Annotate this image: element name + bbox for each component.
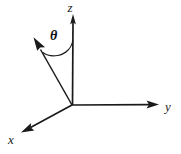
y-axis-label: y	[163, 99, 171, 114]
theta-arc-group	[43, 41, 73, 56]
z-axis-line	[73, 22, 74, 105]
coordinate-axes-figure: z y x θ	[0, 0, 181, 154]
direction-ray-group	[34, 37, 73, 105]
theta-arc-path	[43, 41, 73, 56]
y-axis-group	[72, 101, 159, 109]
theta-angle-label: θ	[50, 28, 58, 43]
figure-canvas: z y x θ	[0, 0, 181, 154]
z-axis-label: z	[66, 0, 72, 15]
x-axis-group	[21, 105, 72, 133]
x-axis-line	[31, 105, 73, 128]
x-axis-label: x	[7, 132, 14, 147]
direction-ray-line	[41, 50, 73, 106]
direction-ray-arrowhead	[34, 37, 46, 51]
z-axis-group	[70, 14, 76, 105]
x-axis-arrowhead	[21, 123, 34, 133]
